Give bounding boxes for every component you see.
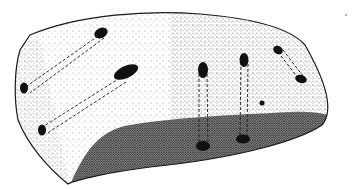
stray-speck — [345, 14, 347, 16]
mid-right-hole-top — [198, 62, 208, 78]
right-hole-bottom — [236, 135, 250, 144]
left-edge-hole-lower — [38, 125, 46, 136]
illustration — [0, 0, 355, 189]
perforated-object-drawing — [0, 0, 355, 189]
left-edge-hole-upper — [20, 83, 28, 94]
small-dot — [260, 101, 265, 106]
object-body — [0, 0, 355, 189]
right-hole-top — [240, 53, 249, 67]
mid-right-hole-bottom — [196, 141, 210, 151]
